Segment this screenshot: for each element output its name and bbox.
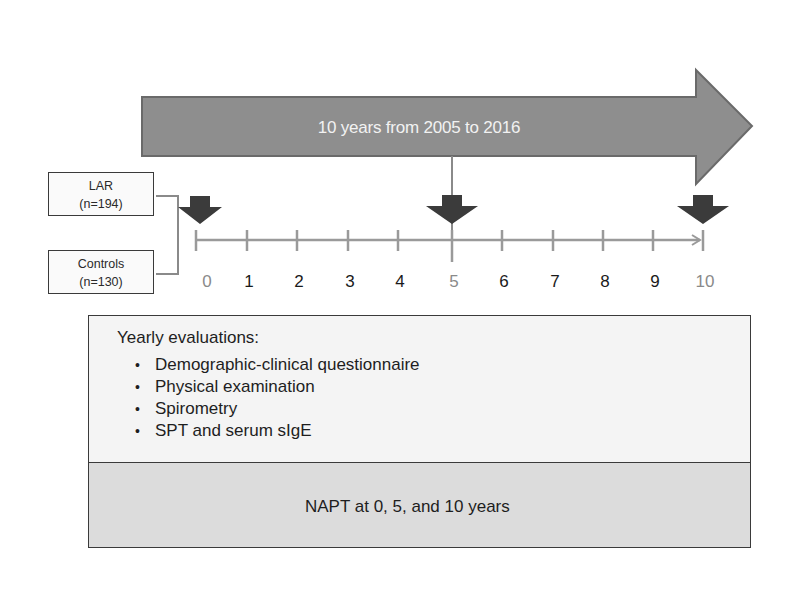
tick-label-4: 4: [385, 272, 415, 292]
list-item: • Demographic-clinical questionnaire: [135, 354, 420, 376]
tick-label-6: 6: [489, 272, 519, 292]
bullet-icon: •: [135, 354, 140, 376]
list-item-label: Demographic-clinical questionnaire: [155, 355, 420, 374]
timeline-banner-label: 10 years from 2005 to 2016: [142, 118, 696, 138]
group-connector: [156, 196, 178, 274]
list-item: • Spirometry: [135, 398, 420, 420]
tick-label-3: 3: [335, 272, 365, 292]
yearly-evaluations-title: Yearly evaluations:: [117, 328, 259, 348]
tick-label-5: 5: [439, 272, 469, 292]
list-item-label: Physical examination: [155, 377, 315, 396]
tick-label-8: 8: [590, 272, 620, 292]
milestone-arrow-year-0: [178, 196, 222, 224]
list-item: • Physical examination: [135, 376, 420, 398]
tick-label-0: 0: [192, 272, 222, 292]
group-name: LAR: [49, 177, 153, 195]
bullet-icon: •: [135, 398, 140, 420]
tick-label-2: 2: [284, 272, 314, 292]
milestone-arrow-year-10: [677, 195, 729, 224]
bullet-icon: •: [135, 420, 140, 442]
group-name: Controls: [49, 255, 153, 273]
list-item-label: Spirometry: [155, 399, 237, 418]
bullet-icon: •: [135, 376, 140, 398]
tick-label-9: 9: [640, 272, 670, 292]
tick-label-1: 1: [234, 272, 264, 292]
group-count: (n=130): [49, 273, 153, 291]
yearly-evaluations-panel: Yearly evaluations: • Demographic-clinic…: [88, 315, 751, 463]
napt-label: NAPT at 0, 5, and 10 years: [305, 497, 510, 517]
napt-panel: NAPT at 0, 5, and 10 years: [88, 462, 751, 548]
timeline-axis: [196, 230, 703, 262]
group-count: (n=194): [49, 195, 153, 213]
tick-label-7: 7: [540, 272, 570, 292]
milestone-arrow-year-5: [426, 195, 478, 224]
list-item-label: SPT and serum sIgE: [155, 421, 312, 440]
tick-label-10: 10: [690, 272, 720, 292]
yearly-evaluations-list: • Demographic-clinical questionnaire • P…: [135, 354, 420, 442]
group-box-lar: LAR (n=194): [48, 172, 154, 216]
group-box-controls: Controls (n=130): [48, 250, 154, 294]
list-item: • SPT and serum sIgE: [135, 420, 420, 442]
